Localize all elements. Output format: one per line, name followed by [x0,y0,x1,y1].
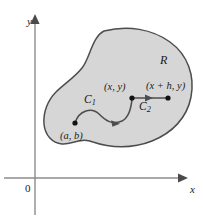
origin-label: 0 [25,183,31,194]
x-axis-label: x [190,184,195,195]
point-label-start: (a, b) [60,131,83,142]
curve-c1-letter: C [84,93,92,105]
figure-canvas: y x 0 R (x, y) (x + h, y) (a, b) C1 C2 [0,0,203,221]
point-label-middle: (x, y) [104,82,126,93]
curve-c2-subscript: 2 [147,105,151,114]
curve-c2-label: C2 [139,101,151,115]
curve-c1-label: C1 [84,94,96,108]
curve-c1-subscript: 1 [92,98,96,107]
x-axis-arrowhead [178,173,188,182]
y-axis-label: y [27,16,32,27]
point-label-end: (x + h, y) [146,81,185,92]
point-dot-end [165,95,170,100]
curve-c2-letter: C [139,100,147,112]
point-dot-middle [129,95,134,100]
region-label: R [160,54,167,66]
point-dot-start [72,120,77,125]
